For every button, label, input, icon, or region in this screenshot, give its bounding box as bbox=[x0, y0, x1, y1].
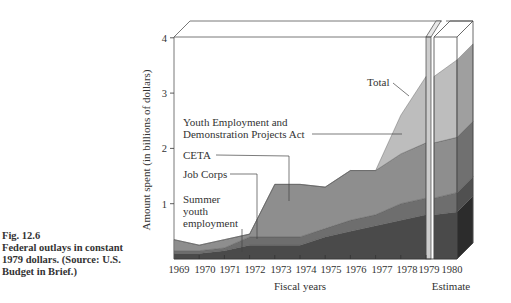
y-tick-label: 1 bbox=[162, 199, 167, 210]
stacked-area-chart: 1234 Amount spent (in billions of dollar… bbox=[0, 0, 511, 303]
x-tick-label: 1978 bbox=[397, 264, 418, 275]
estimate-side-layer bbox=[457, 44, 473, 137]
x-tick-label: 1971 bbox=[220, 264, 241, 275]
summer-label-line2: youth bbox=[183, 205, 209, 217]
x-tick-label: 1970 bbox=[195, 264, 216, 275]
yedpa-label-line2: Demonstration Projects Act bbox=[183, 128, 305, 140]
job-corps-label: Job Corps bbox=[183, 168, 227, 180]
x-tick-label: 1979 bbox=[419, 264, 440, 275]
ceta-label: CETA bbox=[183, 149, 211, 161]
x-tick-label: 1977 bbox=[372, 264, 393, 275]
yedpa-label-line1: Youth Employment and bbox=[183, 116, 288, 128]
y-tick-label: 3 bbox=[162, 88, 167, 99]
estimate-front-layer bbox=[434, 60, 457, 143]
estimate-box bbox=[434, 44, 473, 259]
estimate-label: Estimate bbox=[432, 280, 471, 292]
x-tick-label: 1974 bbox=[296, 264, 318, 275]
y-tick-label: 4 bbox=[162, 33, 168, 44]
estimate-front-layer bbox=[434, 137, 457, 198]
x-tick-label: 1969 bbox=[169, 264, 190, 275]
x-axis-label: Fiscal years bbox=[274, 280, 326, 292]
summer-label-line3: employment bbox=[183, 217, 238, 229]
x-tick-label: 1975 bbox=[321, 264, 342, 275]
total-label: Total bbox=[367, 76, 389, 88]
y-tick-label: 2 bbox=[162, 143, 167, 154]
x-tick-label: 1973 bbox=[271, 264, 292, 275]
estimate-front-layer bbox=[434, 212, 457, 259]
y-axis: 1234 bbox=[162, 33, 174, 210]
summer-label-line1: Summer bbox=[183, 193, 221, 205]
x-tick-label: 1972 bbox=[245, 264, 266, 275]
x-tick-label: 1980 bbox=[442, 264, 463, 275]
y-axis-label: Amount spent (in billions of dollars) bbox=[140, 69, 153, 230]
x-tick-label: 1976 bbox=[346, 264, 367, 275]
x-tick-labels: 1969197019711972197319741975197619771978… bbox=[169, 264, 463, 275]
